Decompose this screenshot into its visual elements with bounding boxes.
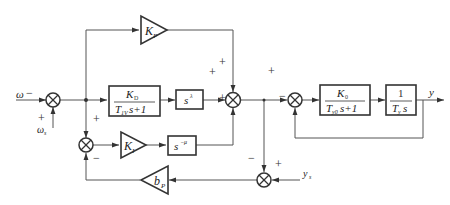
k0-denominator-rest: s+1	[340, 102, 357, 114]
omega-input-label: ω	[16, 88, 24, 100]
sign-sj5-top: −	[248, 151, 255, 165]
summing-junction-1	[46, 93, 60, 107]
integrator-denominator-rest: s	[403, 102, 407, 114]
ki-gain-block: K I	[121, 132, 146, 158]
ys-label: y	[302, 168, 308, 179]
sign-sj1-omega-s: +	[38, 111, 45, 125]
omega-s-subscript: s	[44, 130, 47, 136]
sign-sj4-bottom: −	[279, 89, 286, 103]
k0-transfer-block: K 0 T y0 s+1	[320, 85, 370, 115]
summing-junction-5	[257, 173, 271, 187]
sign-sj3-bottom: −	[93, 151, 100, 165]
kp-gain-block: K P	[141, 16, 167, 44]
k0-numerator-subscript: 0	[345, 94, 348, 100]
bp-label: b	[154, 174, 160, 188]
block-diagram: K P K I b P K D T 1V s+1 s λ s −μ K 0 T …	[0, 0, 450, 205]
s-lambda-exponent: λ	[189, 93, 193, 99]
s-lambda-base: s	[184, 94, 188, 106]
integrator-block: 1 T y s	[386, 85, 416, 115]
sign-sj2-bottom: +	[219, 91, 226, 105]
kd-numerator-subscript: D	[134, 95, 139, 101]
s-mu-base: s	[174, 140, 178, 152]
omega-s-label: ω	[37, 124, 44, 135]
summing-junction-2	[226, 93, 241, 108]
s-mu-exponent: −μ	[180, 139, 187, 145]
s-lambda-block: s λ	[176, 90, 203, 109]
kp-subscript: P	[152, 32, 158, 40]
kd-denominator-rest: s+1	[129, 103, 146, 115]
sign-sj5-right: +	[275, 157, 282, 171]
bp-subscript: P	[160, 182, 166, 190]
output-y-label: y	[428, 86, 434, 98]
branch-point	[263, 99, 266, 102]
s-mu-block: s −μ	[168, 136, 196, 155]
ys-subscript: s	[309, 174, 312, 180]
sign-sj2-top: +	[219, 55, 226, 69]
summing-junction-4	[288, 93, 302, 107]
kd-transfer-block: K D T 1V s+1	[109, 86, 160, 116]
sign-sj2-left: +	[209, 65, 216, 79]
branch-point	[84, 98, 88, 102]
sign-sj4-left: +	[268, 64, 275, 78]
kd-numerator: K	[125, 88, 134, 100]
sign-sj3-top: +	[93, 112, 100, 126]
integrator-numerator: 1	[398, 87, 404, 99]
bp-gain-block: b P	[141, 166, 168, 194]
summing-junction-3	[79, 138, 93, 152]
k0-numerator: K	[336, 87, 345, 99]
sign-sj1-omega: −	[26, 86, 33, 100]
integrator-denominator-subscript: y	[397, 109, 401, 115]
k0-denominator-subscript: y0	[331, 109, 338, 115]
